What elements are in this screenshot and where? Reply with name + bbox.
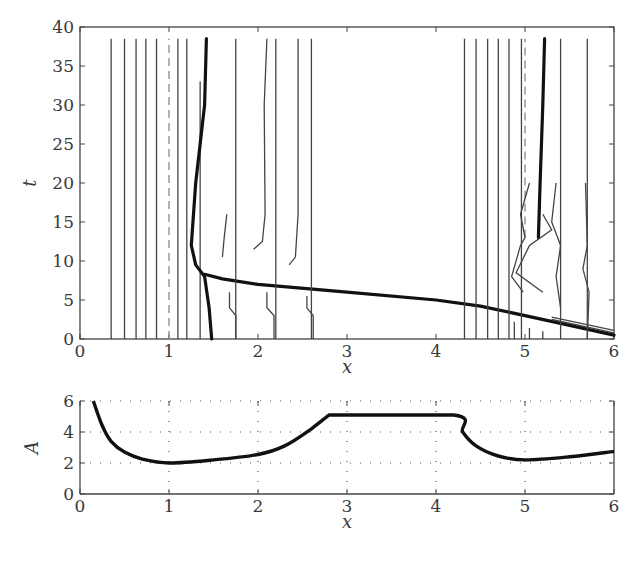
y-axis-label: A (21, 441, 42, 456)
y-tick-label: 0 (63, 484, 74, 504)
x-tick-label: 4 (431, 341, 442, 361)
shock-main-curve (205, 274, 614, 335)
y-tick-label: 10 (52, 251, 74, 271)
characteristic-segment (552, 183, 561, 308)
characteristic-segment (583, 183, 589, 339)
characteristic-segment (289, 39, 298, 265)
x-tick-label: 1 (164, 341, 175, 361)
shock-right-curve (538, 39, 544, 238)
x-tick-label: 4 (431, 496, 442, 516)
y-tick-label: 15 (52, 212, 74, 232)
y-axis-label: t (19, 179, 40, 187)
x-tick-label: 5 (520, 496, 531, 516)
x-tick-label: 0 (75, 496, 86, 516)
y-tick-label: 35 (52, 56, 74, 76)
x-tick-label: 6 (609, 496, 620, 516)
x-tick-label: 6 (609, 341, 620, 361)
characteristic-segment (222, 214, 226, 257)
y-tick-label: 4 (63, 422, 74, 442)
shock-left-curve (191, 39, 211, 339)
x-axis-label: x (342, 511, 352, 532)
y-tick-label: 30 (52, 95, 74, 115)
amplitude-plot: 01234560246xA (21, 391, 619, 532)
characteristic-segment (230, 292, 236, 339)
amplitude-curve (93, 401, 614, 463)
x-tick-label: 2 (253, 496, 264, 516)
x-axis-label: x (342, 356, 352, 377)
characteristics-plot: 01234560510152025303540xt (19, 17, 619, 377)
characteristic-segment (307, 296, 313, 339)
y-tick-label: 25 (52, 134, 74, 154)
x-tick-label: 5 (520, 341, 531, 361)
x-tick-label: 1 (164, 496, 175, 516)
characteristic-segment (267, 292, 274, 339)
x-tick-label: 2 (253, 341, 264, 361)
y-tick-label: 20 (52, 173, 74, 193)
figure: 01234560510152025303540xt 01234560246xA (0, 0, 642, 563)
x-tick-label: 0 (75, 341, 86, 361)
y-tick-label: 0 (63, 329, 74, 349)
y-tick-label: 6 (63, 391, 74, 411)
characteristic-segment (254, 39, 267, 250)
y-tick-label: 5 (63, 290, 74, 310)
y-tick-label: 40 (52, 17, 74, 37)
y-tick-label: 2 (63, 453, 74, 473)
